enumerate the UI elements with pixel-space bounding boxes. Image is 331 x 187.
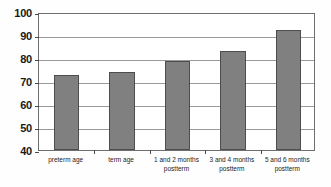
- x-axis-tick-label-line2: postterm: [260, 164, 315, 173]
- bar: [220, 51, 245, 150]
- x-axis-tick-label-line1: 5 and 6 months: [265, 156, 310, 163]
- x-axis-tickmark: [261, 150, 262, 154]
- y-axis-tick-label: 50: [2, 123, 32, 134]
- bar: [54, 75, 79, 150]
- x-axis-tickmark: [94, 150, 95, 154]
- y-axis-tick-label: 100: [2, 8, 32, 19]
- x-axis-tickmark: [150, 150, 151, 154]
- x-axis-tick-label-line1: term age: [108, 156, 134, 163]
- y-axis-tickmark: [35, 152, 39, 153]
- y-axis-tick-label: 80: [2, 54, 32, 65]
- y-axis-tick-label: 60: [2, 100, 32, 111]
- bars-group: [39, 14, 314, 150]
- y-axis-tick-label: 40: [2, 146, 32, 157]
- x-axis-tick-label: 1 and 2 monthspostterm: [149, 155, 204, 173]
- y-axis-tick-label: 70: [2, 77, 32, 88]
- x-axis-tick-label-line2: postterm: [204, 164, 259, 173]
- x-axis-tickmark: [205, 150, 206, 154]
- x-axis-tick-label-line1: preterm age: [48, 156, 83, 163]
- bar: [165, 61, 190, 150]
- x-axis-tick-label-line2: postterm: [149, 164, 204, 173]
- x-axis-tick-label: term age: [93, 155, 148, 164]
- y-axis-labels: 100908070605040: [2, 0, 32, 187]
- x-axis-tick-label: preterm age: [38, 155, 93, 164]
- x-axis-tick-label-line1: 1 and 2 months: [154, 156, 199, 163]
- x-axis-tick-label: 5 and 6 monthspostterm: [260, 155, 315, 173]
- bar-chart: 100908070605040 preterm ageterm age1 and…: [0, 0, 331, 187]
- bar: [276, 30, 301, 150]
- y-axis-tick-label: 90: [2, 31, 32, 42]
- x-axis-labels: preterm ageterm age1 and 2 monthspostter…: [38, 155, 315, 187]
- bar: [109, 72, 134, 150]
- x-axis-tick-label-line1: 3 and 4 months: [209, 156, 254, 163]
- x-axis-tick-label: 3 and 4 monthspostterm: [204, 155, 259, 173]
- plot-area: [38, 13, 315, 151]
